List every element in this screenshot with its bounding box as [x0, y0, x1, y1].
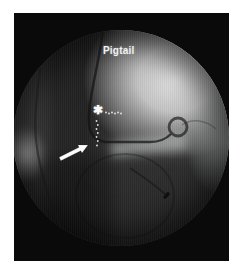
fluoroscopy-photo: Pigtail ✱	[14, 13, 229, 261]
asterisk-marker: ✱	[93, 103, 103, 117]
second-catheter-shadow	[130, 168, 165, 194]
pigtail-label: Pigtail	[103, 45, 134, 56]
arrow-icon	[59, 145, 88, 161]
pigtail-catheter-loop	[169, 118, 187, 136]
cardiac-silhouette-arc	[76, 154, 174, 238]
